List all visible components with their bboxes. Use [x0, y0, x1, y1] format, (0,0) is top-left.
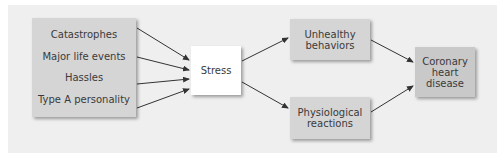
physiological-reactions-box: Physiological reactions: [290, 97, 370, 139]
stressor-hassles: Hassles: [65, 72, 103, 84]
stressor-type-a-personality: Type A personality: [38, 94, 130, 106]
coronary-heart-disease-box: Coronary heart disease: [415, 47, 475, 97]
stressors-box: Catastrophes Major life events Hassles T…: [32, 18, 136, 117]
stress-box: Stress: [191, 46, 241, 95]
outcome-line-1: Coronary: [422, 56, 468, 67]
arrow-hassles-stress: [137, 79, 189, 84]
arrow-major-life-events-stress: [137, 57, 189, 70]
stress-label: Stress: [201, 65, 232, 76]
unhealthy-behaviors-box: Unhealthy behaviors: [290, 19, 370, 60]
arrow-physiological-chd: [371, 86, 413, 112]
physiological-line-1: Physiological: [298, 107, 363, 118]
arrow-type-a-stress: [137, 89, 189, 108]
arrow-stress-physiological: [242, 82, 288, 108]
unhealthy-line-1: Unhealthy: [304, 29, 355, 40]
unhealthy-line-2: behaviors: [305, 40, 354, 51]
outcome-line-3: disease: [426, 78, 464, 89]
stressor-catastrophes: Catastrophes: [51, 29, 117, 41]
arrow-unhealthy-chd: [371, 40, 413, 62]
stressor-major-life-events: Major life events: [42, 51, 125, 63]
arrow-catastrophes-stress: [137, 28, 189, 60]
outcome-line-2: heart: [432, 67, 459, 78]
arrow-stress-unhealthy: [242, 38, 288, 61]
physiological-line-2: reactions: [307, 118, 353, 129]
